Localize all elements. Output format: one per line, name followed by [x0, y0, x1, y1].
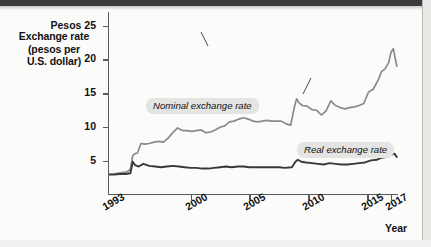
series-label-nominal: Nominal exchange rate [146, 98, 259, 114]
series-label-real: Real exchange rate [297, 142, 394, 158]
y-tick-25: Pesos 25 [103, 26, 109, 27]
bottom-margin-strip [0, 240, 431, 247]
chart-figure: Exchange rate (pesos per U.S. dollar) 51… [0, 0, 431, 247]
y-tick-label-5: 5 [90, 154, 96, 166]
y-axis-title-line-1: Exchange rate [2, 30, 106, 43]
y-tick-20: 20 [103, 59, 109, 60]
y-tick-label-25: Pesos 25 [50, 19, 96, 31]
y-tick-5: 5 [103, 161, 109, 162]
y-tick-15: 15 [103, 93, 109, 94]
y-tick-label-20: 20 [84, 52, 96, 64]
y-tick-10: 10 [103, 127, 109, 128]
x-tick-label-1993: 1993 [100, 190, 126, 212]
y-tick-label-15: 15 [84, 86, 96, 98]
y-tick-label-10: 10 [84, 120, 96, 132]
top-band-shadow [0, 6, 431, 10]
y-axis-line [108, 12, 109, 195]
right-margin-strip [422, 0, 431, 247]
x-axis-title: Year [385, 222, 407, 234]
